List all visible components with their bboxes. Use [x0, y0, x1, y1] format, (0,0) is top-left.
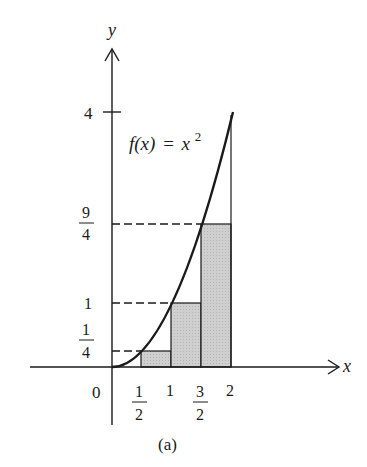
- svg-text:4: 4: [82, 226, 90, 243]
- x-tick-label-1: 1: [166, 382, 174, 399]
- y-axis-label: y: [106, 20, 116, 40]
- rectangle-3: [201, 224, 231, 367]
- axes: [30, 49, 339, 425]
- x-axis-label: x: [342, 356, 351, 376]
- rectangle-1: [141, 351, 171, 367]
- y-tick-label-one-fourth: 1 4: [79, 321, 94, 361]
- riemann-sum-diagram: f(x) = x 2 y x 0 4 9 4 1 1 4 1 2 1 3 2 2…: [0, 0, 367, 467]
- function-label: f(x) = x 2: [129, 129, 201, 155]
- figure-caption: (a): [158, 435, 177, 454]
- svg-text:9: 9: [82, 204, 90, 221]
- y-tick-label-nine-fourths: 9 4: [79, 204, 94, 243]
- diagram-canvas: f(x) = x 2 y x 0 4 9 4 1 1 4 1 2 1 3 2 2…: [0, 0, 367, 467]
- svg-text:3: 3: [196, 383, 204, 400]
- svg-text:4: 4: [82, 344, 90, 361]
- svg-text:2: 2: [135, 406, 143, 423]
- origin-label: 0: [92, 383, 101, 402]
- svg-text:2: 2: [196, 406, 204, 423]
- svg-text:1: 1: [82, 321, 90, 338]
- rectangle-2: [171, 303, 201, 367]
- x-tick-label-2: 2: [226, 382, 234, 399]
- y-tick-label-4: 4: [84, 104, 93, 123]
- y-tick-label-1: 1: [84, 295, 92, 312]
- svg-text:1: 1: [135, 383, 143, 400]
- x-tick-label-one-half: 1 2: [132, 383, 147, 423]
- lower-sum-rectangles: [141, 224, 231, 367]
- x-tick-label-three-halves: 3 2: [193, 383, 208, 423]
